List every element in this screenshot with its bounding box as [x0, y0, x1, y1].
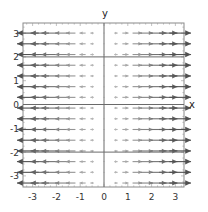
y-tick-label: 1 [13, 76, 19, 86]
x-tick-label: 2 [149, 192, 155, 202]
y-tick-label: 2 [13, 52, 19, 62]
y-tick-label: -3 [10, 171, 19, 181]
y-tick-label: -2 [10, 148, 19, 158]
x-tick-label: -2 [52, 192, 61, 202]
y-tick-label: 3 [13, 29, 19, 39]
x-tick-labels: -3-2-10123 [28, 192, 178, 202]
y-tick-labels: -3-2-10123 [10, 29, 19, 182]
x-axis-label: x [189, 99, 195, 110]
y-tick-label: -1 [10, 124, 19, 134]
y-tick-label: 0 [13, 100, 19, 110]
x-tick-label: -3 [28, 192, 37, 202]
x-tick-label: 3 [173, 192, 179, 202]
x-tick-label: 1 [125, 192, 131, 202]
vector-field-plot: -3-2-10123 -3-2-10123 y x [0, 0, 208, 212]
x-tick-label: 0 [101, 192, 107, 202]
x-tick-label: -1 [76, 192, 85, 202]
reference-lines [23, 23, 184, 187]
y-axis-label: y [102, 8, 108, 19]
